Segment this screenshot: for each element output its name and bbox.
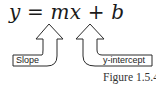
- slope-label: Slope: [16, 55, 39, 65]
- y-intercept-label: y-intercept: [103, 55, 145, 65]
- figure-caption: Figure 1.5.4: [103, 71, 156, 83]
